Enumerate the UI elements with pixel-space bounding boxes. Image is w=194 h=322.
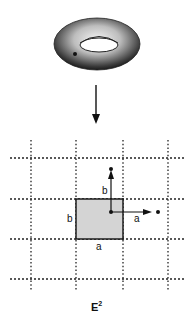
- vector-b-arrowhead-icon: [108, 170, 114, 179]
- vector-b-endpoint: [109, 167, 113, 171]
- vector-b-label: b: [102, 185, 108, 196]
- domain-side-a-label: a: [96, 241, 102, 252]
- vector-a-label: a: [134, 213, 140, 224]
- vector-a-endpoint: [156, 210, 160, 214]
- torus-covering-diagram: b a b a E2: [0, 0, 194, 322]
- torus-point-marker: [73, 52, 77, 56]
- domain-side-b-label: b: [67, 213, 73, 224]
- plane-label-base: E: [91, 301, 98, 313]
- arrow-down-icon: [92, 114, 100, 124]
- plane-label-superscript: 2: [98, 300, 102, 307]
- covering-map-arrow: [92, 85, 100, 124]
- vector-a-arrowhead-icon: [143, 209, 152, 215]
- torus: [54, 18, 140, 70]
- fundamental-domain: [76, 199, 123, 239]
- plane-label: E2: [91, 300, 102, 313]
